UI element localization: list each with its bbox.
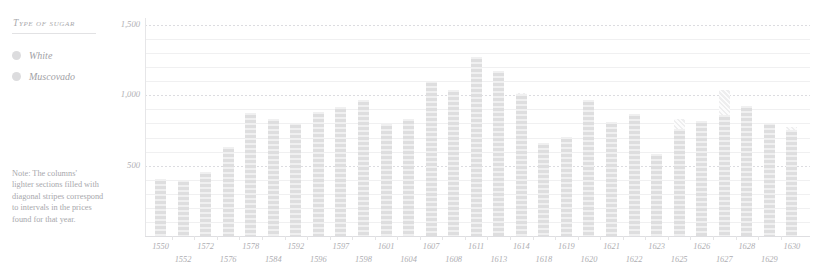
- x-axis-tick: [172, 236, 173, 240]
- bar[interactable]: [719, 115, 730, 236]
- x-axis-tick: [375, 236, 376, 240]
- bar-stripe-cap: [786, 127, 797, 130]
- x-axis-tick-label: 1607: [423, 242, 440, 251]
- bar[interactable]: [223, 147, 234, 236]
- x-axis-tick: [239, 236, 240, 240]
- bar[interactable]: [786, 130, 797, 236]
- bar[interactable]: [741, 106, 752, 236]
- bar[interactable]: [335, 107, 346, 236]
- bar[interactable]: [155, 179, 166, 236]
- x-axis-tick-label: 1618: [535, 255, 552, 264]
- bar-chart: 5001,0001,500 15501552157215761578158415…: [0, 0, 818, 271]
- bar[interactable]: [426, 81, 437, 236]
- x-axis-tick-label: 1601: [378, 242, 395, 251]
- bar[interactable]: [538, 143, 549, 236]
- x-axis-tick: [420, 236, 421, 240]
- x-axis-tick-label: 1630: [784, 242, 801, 251]
- x-axis-tick-label: 1550: [152, 242, 169, 251]
- x-axis-tick: [465, 236, 466, 240]
- x-axis-tick: [600, 236, 601, 240]
- x-axis-tick-label: 1592: [287, 242, 304, 251]
- x-axis-tick-label: 1597: [333, 242, 350, 251]
- bar[interactable]: [245, 113, 256, 236]
- x-axis-tick: [690, 236, 691, 240]
- x-axis-tick: [262, 236, 263, 240]
- x-axis-tick-label: 1584: [265, 255, 282, 264]
- x-axis-tick-label: 1628: [738, 242, 755, 251]
- bar[interactable]: [178, 180, 189, 236]
- bar[interactable]: [561, 137, 572, 236]
- x-axis-tick: [623, 236, 624, 240]
- bar[interactable]: [674, 129, 685, 236]
- x-axis-tick-label: 1604: [400, 255, 417, 264]
- x-axis-tick-label: 1578: [242, 242, 259, 251]
- x-axis-tick: [397, 236, 398, 240]
- bar[interactable]: [290, 123, 301, 236]
- bar[interactable]: [403, 119, 414, 236]
- x-axis-tick: [781, 236, 782, 240]
- x-axis-tick-label: 1552: [175, 255, 192, 264]
- y-axis-tick-label: 1,000: [121, 89, 140, 99]
- x-axis-tick: [442, 236, 443, 240]
- x-axis-tick: [307, 236, 308, 240]
- y-axis-tick-label: 1,500: [121, 19, 140, 29]
- x-axis-tick: [510, 236, 511, 240]
- x-axis-tick-label: 1608: [445, 255, 462, 264]
- x-axis-tick-label: 1619: [558, 242, 575, 251]
- bar[interactable]: [764, 123, 775, 236]
- bar-stripe-cap: [516, 93, 527, 94]
- x-axis-tick-label: 1622: [626, 255, 643, 264]
- bar[interactable]: [516, 94, 527, 236]
- x-axis-tick: [736, 236, 737, 240]
- bar[interactable]: [629, 114, 640, 236]
- x-axis-tick: [645, 236, 646, 240]
- y-axis-tick-label: 500: [127, 160, 140, 170]
- x-axis-tick: [285, 236, 286, 240]
- x-axis-tick-label: 1621: [603, 242, 620, 251]
- x-axis-tick-label: 1629: [761, 255, 778, 264]
- bar-stripe-cap: [674, 119, 685, 129]
- bar[interactable]: [200, 172, 211, 236]
- bar[interactable]: [268, 119, 279, 236]
- bar[interactable]: [358, 100, 369, 236]
- x-axis-tick-label: 1613: [490, 255, 507, 264]
- x-axis-tick-label: 1614: [513, 242, 530, 251]
- x-axis-tick-label: 1625: [671, 255, 688, 264]
- x-axis-tick: [352, 236, 353, 240]
- x-axis-tick: [668, 236, 669, 240]
- bar[interactable]: [651, 154, 662, 236]
- bar[interactable]: [448, 90, 459, 236]
- bar[interactable]: [696, 121, 707, 236]
- x-axis-tick: [533, 236, 534, 240]
- bar-stripe-cap: [719, 90, 730, 115]
- bar[interactable]: [313, 112, 324, 236]
- x-axis-tick: [330, 236, 331, 240]
- x-axis-tick-label: 1572: [197, 242, 214, 251]
- bar[interactable]: [381, 124, 392, 236]
- bar[interactable]: [471, 57, 482, 236]
- x-axis-tick-label: 1627: [716, 255, 733, 264]
- y-axis-labels: 5001,0001,500: [96, 0, 140, 271]
- bar[interactable]: [606, 122, 617, 236]
- x-axis-tick: [487, 236, 488, 240]
- x-axis-tick: [578, 236, 579, 240]
- x-axis-tick: [217, 236, 218, 240]
- x-axis-tick: [194, 236, 195, 240]
- bar[interactable]: [493, 71, 504, 236]
- x-axis-tick-label: 1576: [220, 255, 237, 264]
- x-axis-tick-label: 1596: [310, 255, 327, 264]
- x-axis-tick-label: 1626: [693, 242, 710, 251]
- x-axis-labels: 1550155215721576157815841592159615971598…: [145, 236, 810, 271]
- bar-series: [145, 0, 810, 271]
- bar[interactable]: [583, 100, 594, 236]
- x-axis-tick-label: 1623: [648, 242, 665, 251]
- x-axis-tick-label: 1620: [581, 255, 598, 264]
- x-axis-tick: [555, 236, 556, 240]
- x-axis-tick-label: 1598: [355, 255, 372, 264]
- x-axis-tick: [758, 236, 759, 240]
- x-axis-tick: [713, 236, 714, 240]
- x-axis-tick-label: 1611: [468, 242, 484, 251]
